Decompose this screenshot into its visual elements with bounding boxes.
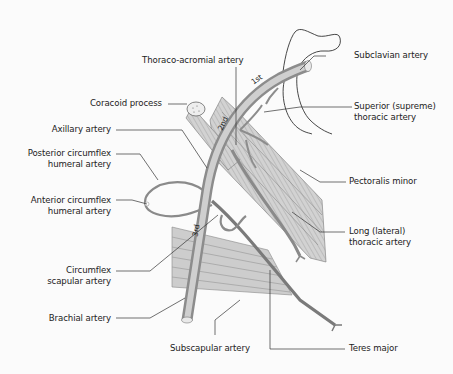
label-axillary-artery: Axillary artery <box>52 124 111 135</box>
label-circumflex-scapular-1: Circumflex <box>66 265 111 276</box>
clavicle-outline <box>283 29 340 134</box>
label-long-thoracic-2: thoracic artery <box>349 237 411 248</box>
label-posterior-circumflex-2: humeral artery <box>48 159 111 170</box>
label-subclavian-artery: Subclavian artery <box>354 50 428 61</box>
label-teres-major: Teres major <box>349 343 398 354</box>
label-anterior-circumflex-1: Anterior circumflex <box>31 195 111 206</box>
label-long-thoracic-1: Long (lateral) <box>349 226 405 237</box>
segment-marker-3rd: 3rd <box>190 224 203 238</box>
label-pectoralis-minor: Pectoralis minor <box>349 176 417 187</box>
label-thoraco-acromial-artery: Thoraco-acromial artery <box>142 55 244 66</box>
label-posterior-circumflex-1: Posterior circumflex <box>28 148 111 159</box>
label-circumflex-scapular-2: scapular artery <box>47 276 111 287</box>
label-anterior-circumflex-2: humeral artery <box>48 206 111 217</box>
label-superior-thoracic-2: thoracic artery <box>354 112 416 123</box>
label-coracoid-process: Coracoid process <box>90 98 162 109</box>
anatomy-diagram: 1st 2nd 3rd Thoraco-acromial artery Cora… <box>0 0 453 374</box>
label-superior-thoracic-1: Superior (supreme) <box>354 101 436 112</box>
label-subscapular-artery: Subscapular artery <box>170 343 250 354</box>
label-brachial-artery: Brachial artery <box>49 313 111 324</box>
